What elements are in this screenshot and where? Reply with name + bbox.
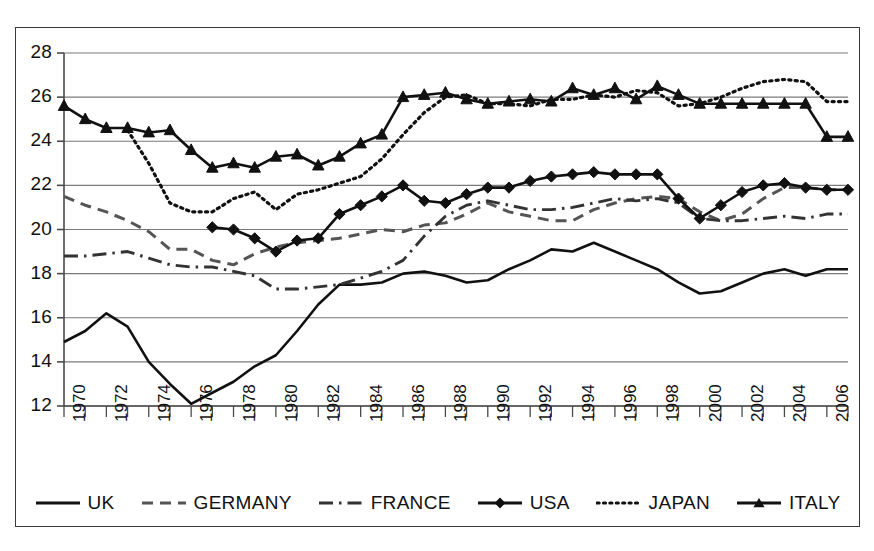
series-marker-triangle (567, 82, 578, 93)
line-chart-plot (16, 28, 859, 526)
legend-label: ITALY (789, 492, 840, 514)
series-marker-diamond (588, 167, 599, 178)
x-tick-label: 2002 (748, 384, 768, 422)
legend-key-line-dotted (596, 495, 642, 511)
legend-key-line-solid-diamond (477, 495, 523, 511)
series-marker-triangle (58, 100, 69, 111)
chart-page: 121416182022242628 197019721974197619781… (0, 0, 874, 551)
x-tick-label: 1984 (367, 384, 387, 422)
legend-label: UK (88, 492, 115, 514)
x-tick-label: 1982 (324, 384, 344, 422)
legend-item-france[interactable]: FRANCE (318, 492, 451, 514)
chart-legend: UKGERMANYFRANCEUSAJAPANITALY (16, 483, 859, 523)
series-marker-diamond (440, 197, 451, 208)
legend-item-germany[interactable]: GERMANY (141, 492, 292, 514)
x-tick-label: 2000 (706, 384, 726, 422)
x-tick-label: 1996 (621, 384, 641, 422)
y-tick-label: 14 (18, 350, 52, 372)
x-tick-label: 1980 (282, 384, 302, 422)
series-marker-diamond (376, 191, 387, 202)
series-marker-diamond (631, 169, 642, 180)
legend-key-line-dashed (141, 495, 187, 511)
series-marker-diamond (609, 169, 620, 180)
series-marker-diamond (546, 171, 557, 182)
series-line-france (64, 199, 848, 289)
legend-key-line-solid (35, 495, 81, 511)
series-marker-diamond (461, 189, 472, 200)
legend-item-usa[interactable]: USA (477, 492, 570, 514)
x-tick-label: 1994 (579, 384, 599, 422)
y-tick-label: 18 (18, 262, 52, 284)
legend-key-line-solid-triangle (736, 495, 782, 511)
x-tick-label: 1988 (451, 384, 471, 422)
legend-key-line-dashdot (318, 495, 364, 511)
x-tick-label: 1972 (112, 384, 132, 422)
series-marker-diamond (355, 200, 366, 211)
legend-item-italy[interactable]: ITALY (736, 492, 840, 514)
series-marker-triangle (652, 80, 663, 91)
series-marker-triangle (79, 113, 90, 124)
series-marker-triangle (609, 82, 620, 93)
series-marker-diamond (800, 182, 811, 193)
x-tick-label: 1978 (240, 384, 260, 422)
series-marker-triangle (228, 157, 239, 168)
series-line-italy (64, 86, 848, 168)
x-tick-label: 1976 (197, 384, 217, 422)
legend-label: GERMANY (194, 492, 292, 514)
x-tick-label: 2006 (833, 384, 853, 422)
x-tick-label: 2004 (790, 384, 810, 422)
series-marker-diamond (503, 182, 514, 193)
y-tick-label: 20 (18, 218, 52, 240)
legend-label: JAPAN (649, 492, 710, 514)
legend-item-japan[interactable]: JAPAN (596, 492, 710, 514)
legend-label: FRANCE (371, 492, 451, 514)
y-tick-label: 22 (18, 173, 52, 195)
x-tick-label: 1990 (494, 384, 514, 422)
series-marker-diamond (567, 169, 578, 180)
x-tick-label: 1986 (409, 384, 429, 422)
legend-item-uk[interactable]: UK (35, 492, 115, 514)
y-tick-label: 28 (18, 41, 52, 63)
figure-frame: 121416182022242628 197019721974197619781… (15, 27, 860, 527)
series-marker-diamond (291, 235, 302, 246)
series-marker-diamond (207, 222, 218, 233)
y-tick-label: 26 (18, 85, 52, 107)
y-tick-label: 24 (18, 129, 52, 151)
x-tick-label: 1970 (70, 384, 90, 422)
x-tick-label: 1998 (663, 384, 683, 422)
x-tick-label: 1992 (536, 384, 556, 422)
series-marker-diamond (482, 182, 493, 193)
y-tick-label: 12 (18, 394, 52, 416)
legend-label: USA (530, 492, 570, 514)
x-tick-label: 1974 (155, 384, 175, 422)
y-tick-label: 16 (18, 306, 52, 328)
series-marker-diamond (228, 224, 239, 235)
series-marker-triangle (334, 150, 345, 161)
series-marker-diamond (779, 178, 790, 189)
series-marker-diamond (758, 180, 769, 191)
